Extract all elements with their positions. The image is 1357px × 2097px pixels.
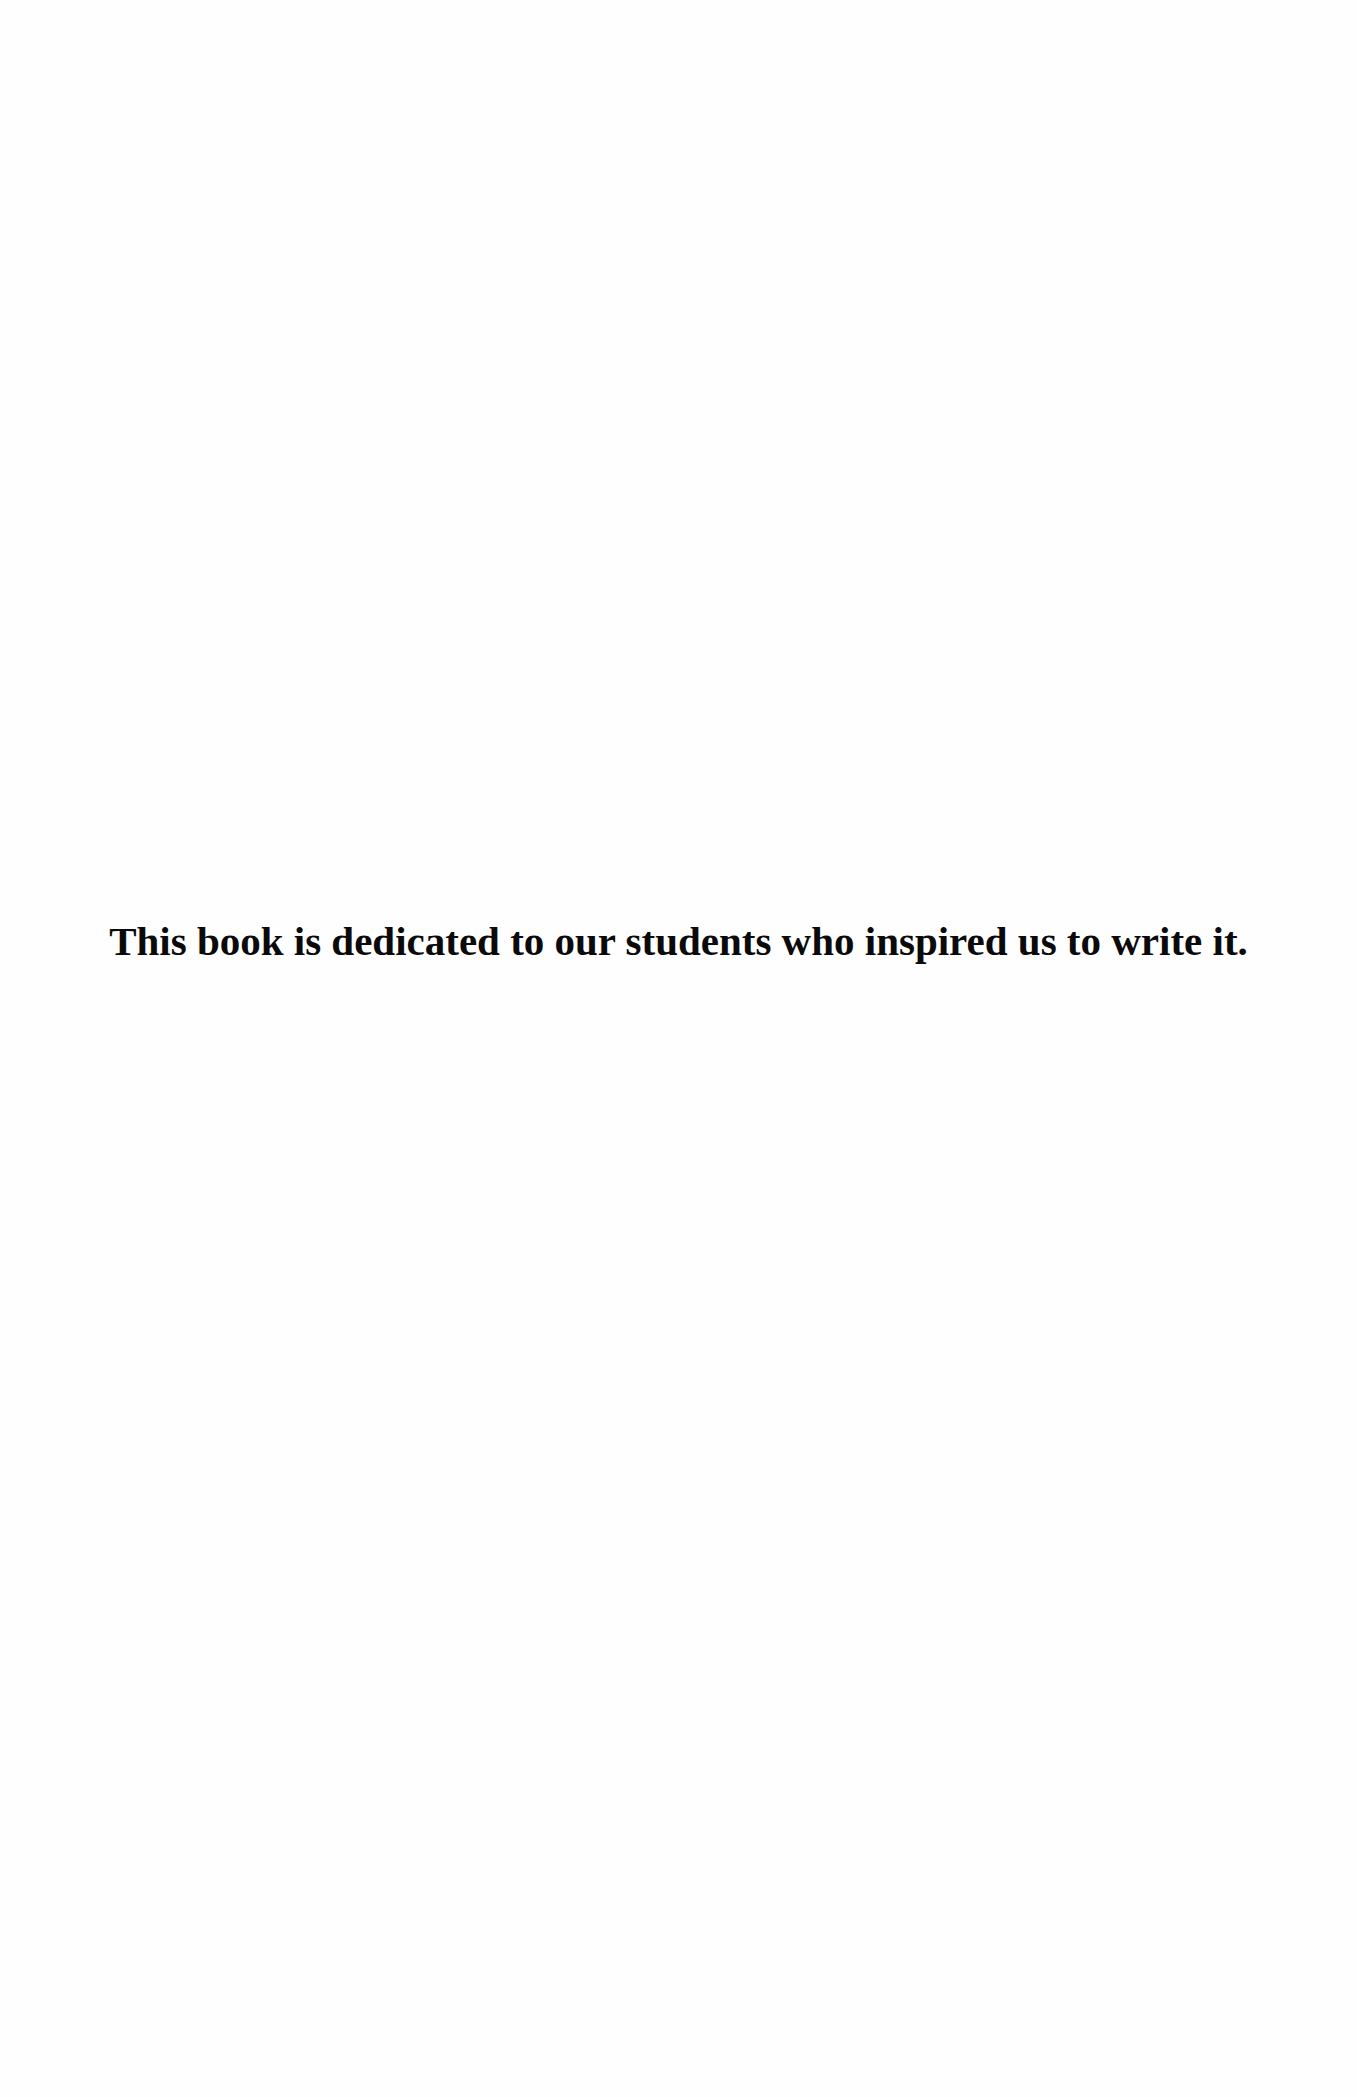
dedication-text: This book is dedicated to our students w… — [0, 913, 1357, 969]
dedication-page: This book is dedicated to our students w… — [0, 0, 1357, 2097]
